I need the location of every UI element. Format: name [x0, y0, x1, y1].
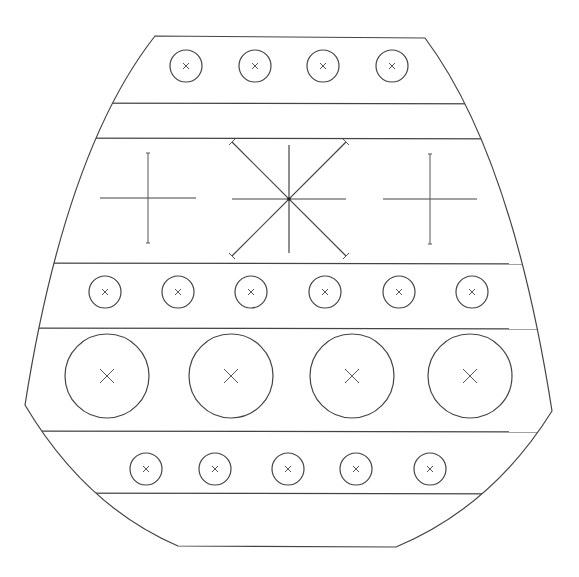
- circle-x-marker: [235, 276, 267, 308]
- circle-x-marker: [383, 276, 415, 308]
- star-center-dot: [287, 197, 291, 201]
- circle-x-marker: [170, 50, 202, 82]
- band-line-1: [0, 103, 579, 104]
- circle-x-marker: [239, 50, 271, 82]
- circle-x-marker: [189, 334, 273, 418]
- circle-x-marker: [428, 334, 512, 418]
- circle-x-marker: [307, 50, 339, 82]
- circle-x-marker: [199, 453, 231, 485]
- circle-x-marker: [456, 276, 488, 308]
- circle-markers: [65, 50, 512, 485]
- band-line-2: [0, 138, 579, 139]
- band-line-4: [0, 328, 579, 329]
- circle-x-marker: [310, 334, 394, 418]
- band-line-3: [0, 263, 579, 264]
- panel-drawing: [0, 0, 579, 577]
- star-symbol: [229, 139, 349, 259]
- right-cross: [383, 154, 477, 244]
- circle-x-marker: [89, 276, 121, 308]
- circle-x-marker: [162, 276, 194, 308]
- large-row: [65, 334, 512, 418]
- circle-x-marker: [130, 453, 162, 485]
- circle-x-marker: [414, 453, 446, 485]
- circle-x-marker: [65, 334, 149, 418]
- circle-x-marker: [340, 453, 372, 485]
- circle-x-marker: [309, 276, 341, 308]
- band-line-6: [0, 493, 579, 494]
- circle-x-marker: [376, 50, 408, 82]
- circle-x-marker: [272, 453, 304, 485]
- band-line-5: [0, 431, 579, 432]
- bottom-row: [130, 453, 446, 485]
- middle-small-row: [89, 276, 488, 308]
- left-cross: [100, 153, 196, 243]
- diagram-canvas: [0, 0, 579, 577]
- top-row: [170, 50, 408, 82]
